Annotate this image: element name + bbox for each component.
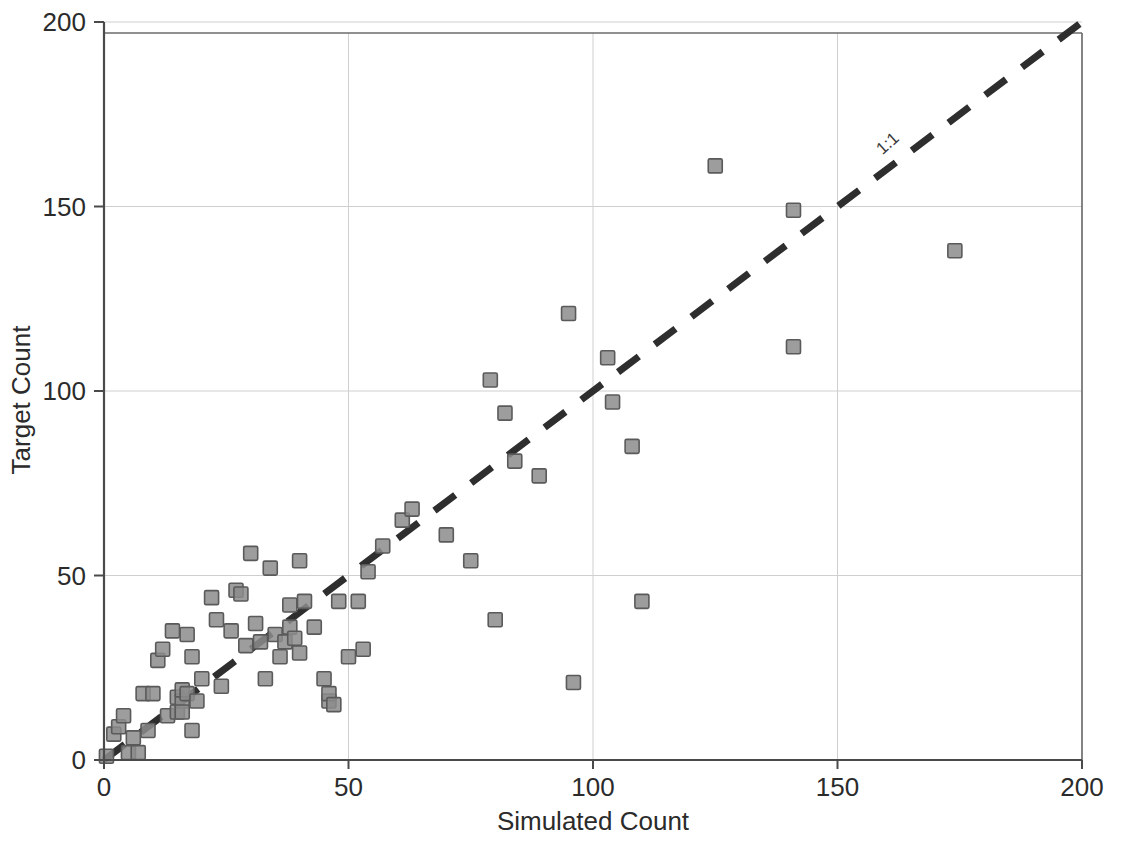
data-point-marker [342,650,356,664]
data-point-marker [635,594,649,608]
y-tick-label: 100 [43,376,86,406]
data-point-marker [508,454,522,468]
data-point-marker [185,723,199,737]
data-point-marker [253,635,267,649]
data-point-marker [239,639,253,653]
data-point-marker [258,672,272,686]
data-point-marker [131,746,145,760]
data-point-marker [297,594,311,608]
data-point-marker [307,620,321,634]
data-point-marker [195,672,209,686]
data-point-marker [439,528,453,542]
x-tick-label: 100 [571,772,614,802]
data-point-marker [146,687,160,701]
y-tick-label: 0 [72,745,86,775]
data-point-marker [175,705,189,719]
x-axis-title: Simulated Count [497,806,690,836]
data-point-marker [205,591,219,605]
data-point-marker [566,676,580,690]
data-point-marker [498,406,512,420]
plot-canvas: 050100150200 050100150200 1:1 Simulated … [0,0,1121,847]
data-point-marker [317,672,331,686]
data-point-marker [156,642,170,656]
data-point-marker [405,502,419,516]
data-point-marker [283,598,297,612]
data-point-marker [99,749,113,763]
data-point-marker [786,340,800,354]
data-point-marker [786,203,800,217]
data-point-marker [185,650,199,664]
data-point-marker [464,554,478,568]
data-point-marker [625,439,639,453]
data-point-marker [214,679,228,693]
data-point-marker [376,539,390,553]
data-point-marker [562,307,576,321]
x-tick-label: 200 [1060,772,1103,802]
data-point-marker [606,395,620,409]
data-point-marker [948,244,962,258]
data-point-marker [180,628,194,642]
y-tick-label: 50 [57,561,86,591]
data-point-marker [293,646,307,660]
data-point-marker [209,613,223,627]
data-point-marker [141,723,155,737]
data-point-marker [293,554,307,568]
data-point-marker [532,469,546,483]
scatter-plot-figure: 050100150200 050100150200 1:1 Simulated … [0,0,1121,847]
data-point-marker [234,587,248,601]
data-point-marker [327,698,341,712]
data-point-marker [356,642,370,656]
data-point-marker [332,594,346,608]
data-point-marker [224,624,238,638]
data-point-marker [601,351,615,365]
data-point-marker [488,613,502,627]
x-tick-label: 150 [816,772,859,802]
data-point-marker [483,373,497,387]
data-point-marker [708,159,722,173]
data-point-marker [244,546,258,560]
y-tick-label: 200 [43,7,86,37]
data-point-marker [190,694,204,708]
data-point-marker [273,650,287,664]
y-tick-label: 150 [43,192,86,222]
data-point-marker [117,709,131,723]
y-axis-title: Target Count [6,325,36,475]
data-point-marker [288,631,302,645]
data-point-marker [361,565,375,579]
data-point-marker [263,561,277,575]
data-point-marker [351,594,365,608]
x-tick-label: 0 [97,772,111,802]
x-tick-label: 50 [334,772,363,802]
data-point-marker [126,731,140,745]
data-point-marker [165,624,179,638]
data-point-marker [249,616,263,630]
